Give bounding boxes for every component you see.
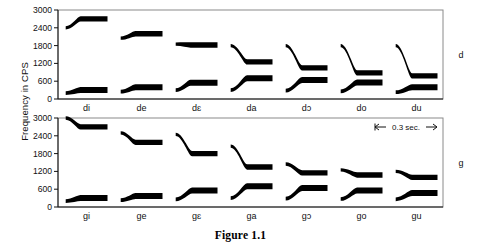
- syllable-label-ge: ge: [137, 211, 147, 221]
- y-tick-label-d-600: 600: [38, 76, 53, 86]
- syllable-label-gi: gi: [83, 211, 90, 221]
- syllable-label-dɔ: dɔ: [302, 103, 312, 113]
- panel-label-g: g: [458, 158, 463, 168]
- figure-caption: Figure 1.1: [0, 229, 481, 241]
- y-tick-label-d-1800: 1800: [33, 41, 52, 51]
- panel-frame-d: [58, 10, 443, 99]
- y-tick-label-d-1200: 1200: [33, 58, 52, 68]
- y-tick-label-g-3000: 3000: [33, 113, 52, 123]
- panel-frame-g: [58, 118, 443, 207]
- y-tick-label-g-0: 0: [47, 202, 52, 212]
- syllable-label-do: do: [357, 103, 367, 113]
- syllable-label-dɛ: dɛ: [192, 103, 201, 113]
- y-axis-label: Frequency in CPS: [19, 32, 30, 172]
- syllable-label-gɔ: gɔ: [302, 211, 312, 221]
- panel-label-d: d: [458, 50, 463, 60]
- figure-container: Frequency in CPS 30002400180012006000did…: [0, 0, 481, 251]
- y-tick-label-g-1800: 1800: [33, 149, 52, 159]
- formant-plot: 30002400180012006000didedɛdadɔdodud30002…: [0, 0, 481, 229]
- syllable-label-go: go: [357, 211, 367, 221]
- svg-text:0.3 sec.: 0.3 sec.: [392, 123, 420, 132]
- syllable-label-da: da: [247, 103, 257, 113]
- syllable-label-gu: gu: [412, 211, 422, 221]
- y-tick-label-d-0: 0: [47, 94, 52, 104]
- y-tick-label-g-1200: 1200: [33, 166, 52, 176]
- y-tick-label-g-600: 600: [38, 184, 53, 194]
- y-tick-label-g-2400: 2400: [33, 131, 52, 141]
- syllable-label-ga: ga: [247, 211, 257, 221]
- syllable-label-gɛ: gɛ: [192, 211, 201, 221]
- y-tick-label-d-3000: 3000: [33, 5, 52, 15]
- syllable-label-di: di: [83, 103, 90, 113]
- syllable-label-du: du: [412, 103, 422, 113]
- syllable-label-de: de: [137, 103, 147, 113]
- y-tick-label-d-2400: 2400: [33, 23, 52, 33]
